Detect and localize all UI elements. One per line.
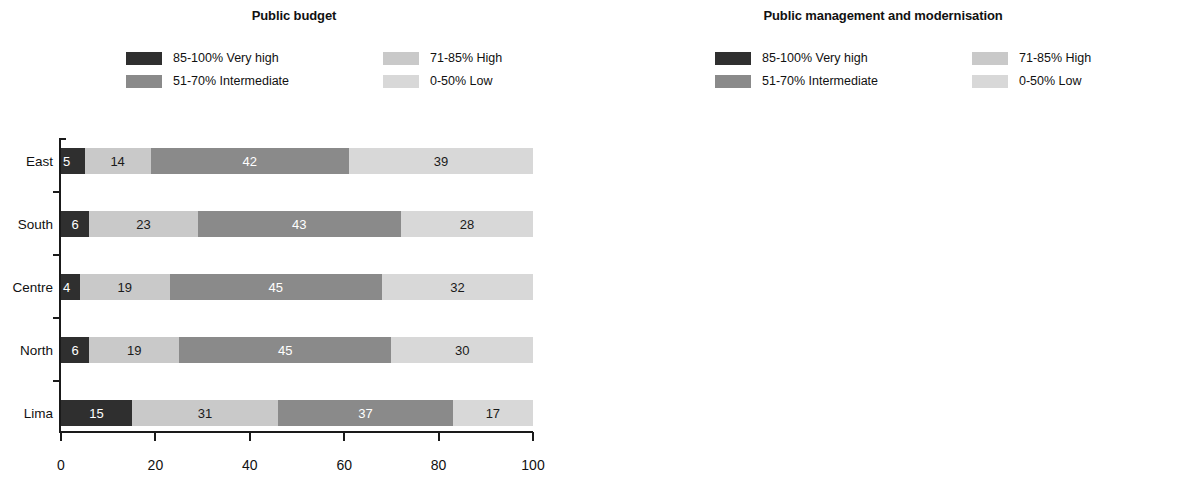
legend-swatch-intermediate-icon bbox=[126, 75, 162, 88]
bar-segment-very-high[interactable]: 4 bbox=[61, 274, 80, 300]
bar-segment-value: 19 bbox=[127, 344, 141, 357]
legend-item-high: 71-85% High bbox=[972, 52, 1091, 65]
x-axis-tick bbox=[154, 432, 156, 441]
legend-item-very-high: 85-100% Very high bbox=[715, 52, 868, 65]
x-axis-tick-label: 20 bbox=[148, 457, 164, 473]
x-axis-tick-label: 80 bbox=[431, 457, 447, 473]
bar-segment-value: 45 bbox=[278, 344, 292, 357]
bar-segment-value: 30 bbox=[455, 344, 469, 357]
page-title-right: Public management and modernisation bbox=[589, 8, 1177, 23]
bar-segment-high[interactable]: 14 bbox=[85, 148, 151, 174]
bar-segment-value: 42 bbox=[243, 155, 257, 168]
legend-item-intermediate: 51-70% Intermediate bbox=[126, 75, 289, 88]
legend-item-low: 0-50% Low bbox=[972, 75, 1082, 88]
x-axis-tick bbox=[532, 432, 534, 441]
bar-segment-value: 17 bbox=[486, 407, 500, 420]
bar-segment-low[interactable]: 32 bbox=[382, 274, 533, 300]
bar-segment-intermediate[interactable]: 37 bbox=[278, 400, 453, 426]
chart-public-management-and-modernisation: Public management and modernisation 85-1… bbox=[589, 0, 1177, 477]
legend-label-intermediate: 51-70% Intermediate bbox=[173, 75, 289, 88]
bar-segment-value: 31 bbox=[198, 407, 212, 420]
x-axis-tick bbox=[438, 432, 440, 441]
legend-item-intermediate: 51-70% Intermediate bbox=[715, 75, 878, 88]
bar-segment-high[interactable]: 23 bbox=[89, 211, 198, 237]
legend-label-high: 71-85% High bbox=[1019, 52, 1091, 65]
bar-segment-low[interactable]: 30 bbox=[391, 337, 533, 363]
bar-segment-value: 6 bbox=[72, 344, 79, 357]
legend-right: 85-100% Very high 51-70% Intermediate 71… bbox=[707, 52, 1127, 98]
bar-segment-value: 5 bbox=[61, 155, 70, 168]
legend-label-intermediate: 51-70% Intermediate bbox=[762, 75, 878, 88]
legend-swatch-low-icon bbox=[383, 75, 419, 88]
bar-segment-value: 15 bbox=[89, 407, 103, 420]
legend-item-very-high: 85-100% Very high bbox=[126, 52, 279, 65]
legend-label-low: 0-50% Low bbox=[430, 75, 493, 88]
legend-item-low: 0-50% Low bbox=[383, 75, 493, 88]
bar-segment-value: 43 bbox=[292, 218, 306, 231]
bar-segment-intermediate[interactable]: 42 bbox=[151, 148, 349, 174]
legend-swatch-high-icon bbox=[972, 52, 1008, 65]
bar-row-label: East bbox=[26, 154, 53, 169]
bar-segment-value: 14 bbox=[110, 155, 124, 168]
bar-segment-very-high[interactable]: 5 bbox=[61, 148, 85, 174]
legend-label-very-high: 85-100% Very high bbox=[173, 52, 279, 65]
plot-area-left: 020406080100East5144239South6234328Centr… bbox=[61, 138, 533, 440]
bar-segment-value: 32 bbox=[450, 281, 464, 294]
bar-segment-low[interactable]: 28 bbox=[401, 211, 533, 237]
y-axis-top-cap bbox=[59, 138, 66, 140]
x-axis-tick-label: 100 bbox=[521, 457, 544, 473]
y-axis-tick bbox=[53, 380, 60, 382]
legend-left: 85-100% Very high 51-70% Intermediate 71… bbox=[118, 52, 538, 98]
page-title-left: Public budget bbox=[0, 8, 588, 23]
bar-row-label: Centre bbox=[12, 280, 53, 295]
legend-item-high: 71-85% High bbox=[383, 52, 502, 65]
bar-segment-low[interactable]: 39 bbox=[349, 148, 533, 174]
bar-segment-very-high[interactable]: 6 bbox=[61, 211, 89, 237]
bar-segment-high[interactable]: 19 bbox=[89, 337, 179, 363]
x-axis-tick bbox=[249, 432, 251, 441]
bar-segment-value: 45 bbox=[269, 281, 283, 294]
legend-label-very-high: 85-100% Very high bbox=[762, 52, 868, 65]
y-axis-tick bbox=[53, 191, 60, 193]
bar-segment-intermediate[interactable]: 45 bbox=[170, 274, 382, 300]
bar-row-label: North bbox=[20, 343, 53, 358]
y-axis-tick bbox=[53, 317, 60, 319]
bar-row[interactable]: Centre4194532 bbox=[61, 274, 533, 300]
chart-public-budget: Public budget 85-100% Very high 51-70% I… bbox=[0, 0, 588, 477]
legend-swatch-high-icon bbox=[383, 52, 419, 65]
bar-segment-value: 37 bbox=[358, 407, 372, 420]
bar-segment-very-high[interactable]: 6 bbox=[61, 337, 89, 363]
x-axis-tick-label: 60 bbox=[336, 457, 352, 473]
bar-row-label: Lima bbox=[24, 406, 53, 421]
legend-swatch-intermediate-icon bbox=[715, 75, 751, 88]
legend-label-high: 71-85% High bbox=[430, 52, 502, 65]
bar-segment-intermediate[interactable]: 43 bbox=[198, 211, 401, 237]
legend-swatch-very-high-icon bbox=[126, 52, 162, 65]
x-axis bbox=[59, 431, 533, 433]
x-axis-tick bbox=[60, 432, 62, 441]
bar-row[interactable]: North6194530 bbox=[61, 337, 533, 363]
bar-row[interactable]: South6234328 bbox=[61, 211, 533, 237]
bar-segment-very-high[interactable]: 15 bbox=[61, 400, 132, 426]
x-axis-tick-label: 0 bbox=[57, 457, 65, 473]
legend-swatch-low-icon bbox=[972, 75, 1008, 88]
bar-segment-value: 28 bbox=[460, 218, 474, 231]
bar-segment-intermediate[interactable]: 45 bbox=[179, 337, 391, 363]
bar-segment-value: 6 bbox=[72, 218, 79, 231]
legend-label-low: 0-50% Low bbox=[1019, 75, 1082, 88]
bar-segment-high[interactable]: 31 bbox=[132, 400, 278, 426]
bar-row[interactable]: Lima15313717 bbox=[61, 400, 533, 426]
bar-segment-value: 23 bbox=[136, 218, 150, 231]
x-axis-tick-label: 40 bbox=[242, 457, 258, 473]
bar-segment-value: 39 bbox=[434, 155, 448, 168]
bar-row[interactable]: East5144239 bbox=[61, 148, 533, 174]
bar-row-label: South bbox=[18, 217, 53, 232]
x-axis-tick bbox=[343, 432, 345, 441]
bar-segment-value: 19 bbox=[117, 281, 131, 294]
bar-segment-low[interactable]: 17 bbox=[453, 400, 533, 426]
legend-swatch-very-high-icon bbox=[715, 52, 751, 65]
bar-segment-value: 4 bbox=[61, 281, 70, 294]
y-axis-tick bbox=[53, 254, 60, 256]
bar-segment-high[interactable]: 19 bbox=[80, 274, 170, 300]
